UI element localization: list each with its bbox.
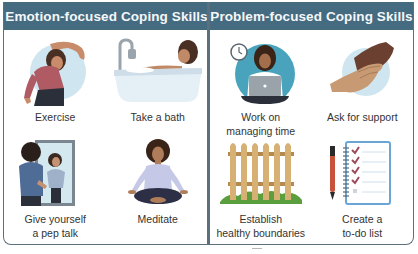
holding-hands-illustration-icon [314,36,410,106]
emotion-focused-grid: Exercise Take a bath [4,30,209,244]
item-to-do-list: Create a to-do list [312,136,414,244]
item-label: Work on managing time [226,110,295,138]
mirror-person-illustration-icon [7,138,103,208]
picket-fence-illustration-icon [213,138,309,208]
stretching-woman-illustration-icon [7,36,103,106]
item-label: Give yourself a pep talk [25,212,86,240]
item-label: Establish healthy boundaries [216,212,305,240]
item-label: Create a to-do list [342,212,382,240]
bathtub-woman-illustration-icon [110,36,206,106]
item-label: Exercise [35,110,75,124]
item-managing-time: Work on managing time [210,30,312,136]
item-label: Take a bath [131,110,185,124]
item-healthy-boundaries: Establish healthy boundaries [210,136,312,244]
meditating-woman-illustration-icon [110,138,206,208]
footer-mark [252,248,262,251]
problem-focused-header: Problem-focused Coping Skills [210,2,413,30]
item-exercise: Exercise [4,30,107,136]
problem-focused-grid: Work on managing time Ask for support [210,30,413,244]
item-label: Ask for support [327,110,398,124]
emotion-focused-header: Emotion-focused Coping Skills [4,2,209,30]
item-label: Meditate [138,212,178,226]
woman-laptop-clock-illustration-icon [213,36,309,106]
emotion-focused-panel: Emotion-focused Coping Skills Exercise [3,2,209,245]
item-meditate: Meditate [107,136,210,244]
item-ask-for-support: Ask for support [312,30,414,136]
problem-focused-panel: Problem-focused Coping Skills Work on ma… [209,2,414,245]
item-pep-talk: Give yourself a pep talk [4,136,107,244]
checklist-notebook-pen-illustration-icon [314,138,410,208]
item-take-a-bath: Take a bath [107,30,210,136]
